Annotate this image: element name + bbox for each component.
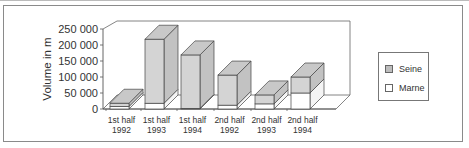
bar-front-seine [255, 95, 274, 104]
x-category-label: 2nd half [251, 115, 282, 125]
bar-group [145, 25, 178, 109]
y-tick-label: 250 000 [58, 23, 98, 35]
x-category-label: 1st half [179, 115, 207, 125]
y-tick-label: 0 [92, 103, 98, 115]
legend-label-seine: Seine [399, 64, 422, 74]
x-category-label: 1st half [143, 115, 171, 125]
bar-front-seine [181, 55, 200, 108]
bar-group [181, 41, 214, 109]
bar-front-seine [291, 77, 310, 93]
x-category-label: 1st half [108, 115, 136, 125]
y-tick-label: 200 000 [58, 39, 98, 51]
bar-front-seine [110, 103, 129, 106]
legend-item-seine: Seine [385, 64, 422, 74]
top-depth-line [103, 21, 117, 29]
bar-front-marne [255, 104, 274, 109]
x-category-label: 1992 [220, 125, 239, 135]
bar-front-marne [291, 93, 310, 109]
y-tick-label: 150 000 [58, 55, 98, 67]
y-axis-label: Volume in m [41, 37, 53, 100]
bar-front-marne [145, 103, 164, 109]
bar-front-marne [218, 105, 237, 109]
x-category-label: 1994 [293, 125, 312, 135]
legend-swatch-seine [385, 65, 393, 73]
x-category-label: 1993 [257, 125, 276, 135]
x-category-label: 1993 [147, 125, 166, 135]
bar-front-seine [145, 39, 164, 103]
y-tick-label: 50 000 [64, 87, 98, 99]
legend-swatch-marne [385, 84, 393, 92]
bar-front-seine [218, 75, 237, 105]
legend-item-marne: Marne [385, 83, 425, 93]
x-category-label: 1992 [112, 125, 131, 135]
x-category-label: 1994 [183, 125, 202, 135]
legend: Seine Marne [378, 52, 429, 101]
bar-front-marne [110, 106, 129, 109]
y-tick-label: 100 000 [58, 71, 98, 83]
x-category-label: 2nd half [214, 115, 245, 125]
legend-label-marne: Marne [399, 83, 425, 93]
x-category-label: 2nd half [287, 115, 318, 125]
